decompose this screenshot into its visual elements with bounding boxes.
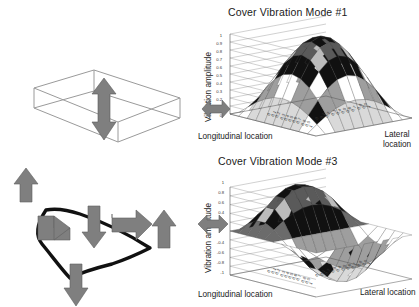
figure-root: Cover Vibration Mode #1 Vibration amplit…: [0, 0, 419, 307]
chart-mode1: Cover Vibration Mode #1 Vibration amplit…: [196, 4, 419, 154]
chart-mode1-xlabel: Longitudinal location: [198, 132, 273, 141]
open-box-diagram: [22, 60, 192, 145]
chart-mode3-zlabel: Lateral location: [360, 288, 416, 297]
chart-mode1-zlabel-line1: Lateral: [376, 130, 418, 140]
chart-mode3-amplitude-arrow: [198, 213, 228, 235]
deformed-plate-diagram: [8, 160, 198, 307]
axis-tick: 1: [308, 281, 314, 285]
axis-tick: 1: [308, 124, 314, 128]
arrow-up-left: [14, 168, 38, 202]
chart-mode1-zlabel: Lateral location: [376, 130, 418, 149]
box-vertical-double-arrow: [92, 78, 116, 140]
chart-mode3-title: Cover Vibration Mode #3: [218, 155, 337, 167]
chart-mode3: Cover Vibration Mode #3 Vibration amplit…: [196, 155, 419, 307]
chart-mode1-zlabel-line2: location: [376, 140, 418, 150]
arrow-up-right: [152, 210, 176, 248]
chart-mode1-title: Cover Vibration Mode #1: [228, 6, 347, 18]
chart-mode3-xlabel: Longitudinal location: [198, 290, 273, 299]
